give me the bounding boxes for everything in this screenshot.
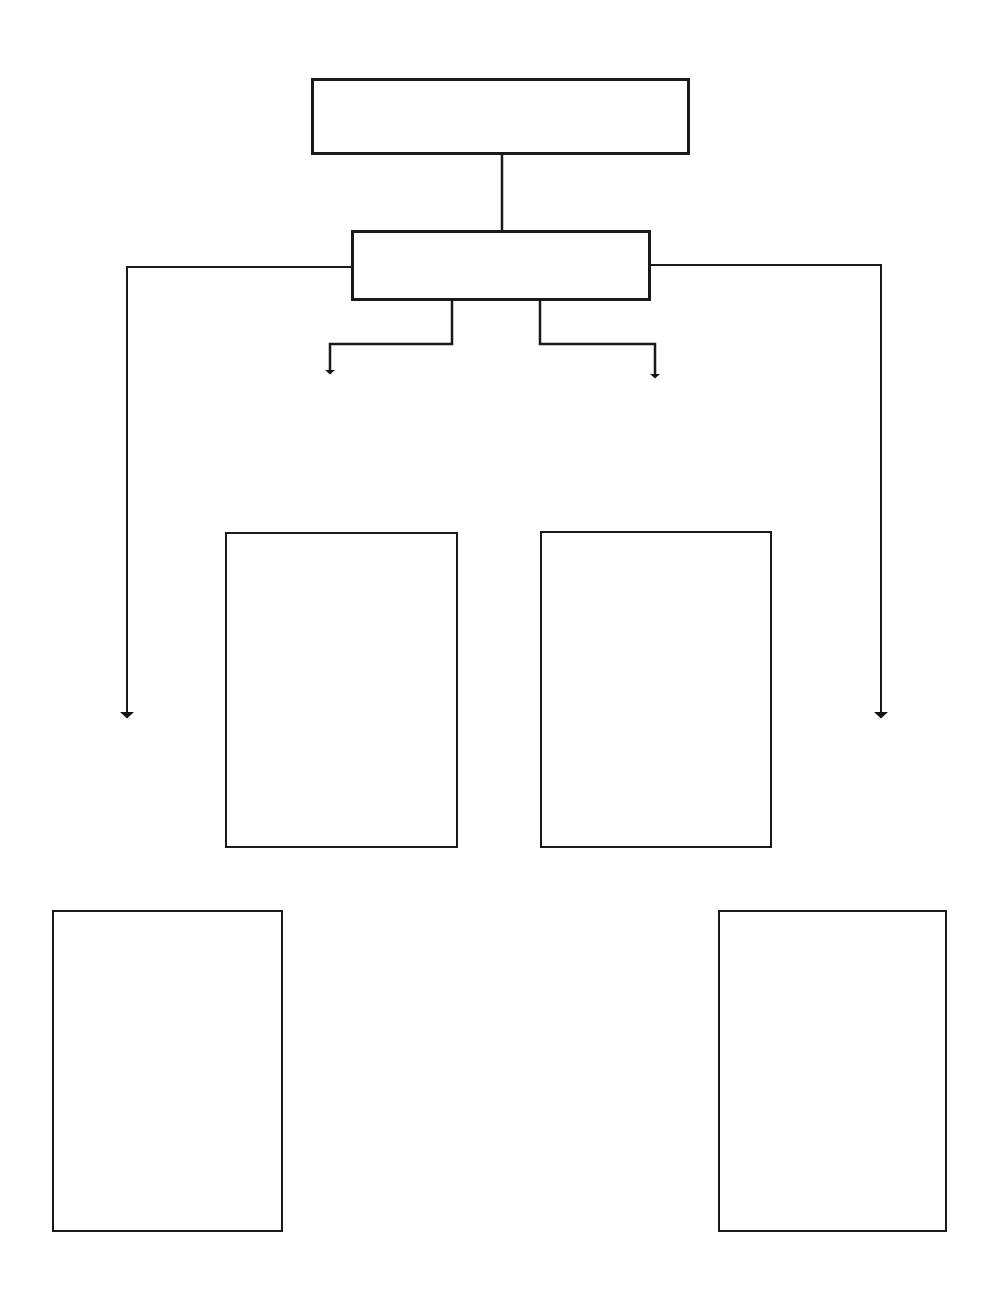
bottom-right-box[interactable] [718,910,947,1232]
bottom-right-box-label [825,1067,841,1075]
second-box[interactable] [351,230,651,301]
top-box-label [493,113,509,121]
middle-right-box[interactable] [540,531,772,848]
connector-second-to-inner-left-arrow [330,301,452,372]
second-box-label [493,262,509,270]
middle-left-box-label [334,686,350,694]
diagram-page [0,0,999,1310]
top-box[interactable] [311,78,690,155]
connector-second-to-inner-right-arrow [540,301,655,376]
middle-left-box[interactable] [225,532,458,848]
bottom-left-box-label [160,1067,176,1075]
bottom-left-box[interactable] [52,910,283,1232]
middle-right-box-label [648,686,664,694]
